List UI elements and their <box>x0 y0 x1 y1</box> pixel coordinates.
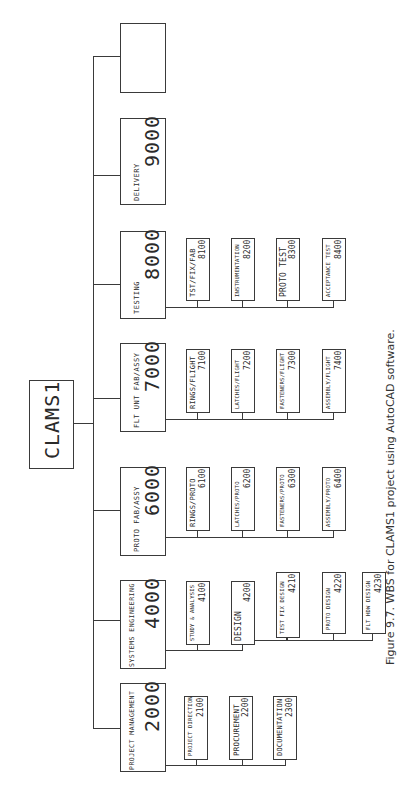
node-4210: TEST FIX DESIGN 4210 <box>276 572 300 638</box>
node-8300: PROTO TEST 8300 <box>276 238 300 301</box>
node-code: 6100 <box>199 469 207 488</box>
node-name: SYSTEMS ENGINEERING <box>129 583 136 667</box>
node-7100: RINGS/FLIGHT 7100 <box>186 349 210 413</box>
tick-4230 <box>372 633 373 640</box>
node-name: PROJECT MANAGEMENT <box>129 691 136 770</box>
figure-caption: Figure 9.7. WBS for CLAMS1 project using… <box>384 329 397 665</box>
node-8000-testing: TESTING 8000 <box>120 231 166 319</box>
bus-4200 <box>255 640 333 641</box>
tick-8400 <box>333 300 334 307</box>
node-6200: LATCHES/PROTO 6200 <box>231 467 255 531</box>
node-code: 8000 <box>142 228 162 280</box>
node-name: DESIGN <box>235 611 243 641</box>
stub-empty <box>93 56 120 57</box>
node-name: DELIVERY <box>134 163 141 201</box>
node-7400: ASSEMBLY/FLIGHT 7400 <box>322 349 346 413</box>
node-code: 7000 <box>142 340 162 392</box>
node-name: RINGS/PROTO <box>190 478 197 527</box>
bus-4000 <box>166 650 198 651</box>
node-6400: ASSEMBLY/PROTO 6400 <box>322 467 346 531</box>
node-code: 4000 <box>142 577 162 629</box>
node-2300: DOCUMENTATION 2300 <box>273 696 297 760</box>
node-code: 2000 <box>142 680 162 732</box>
tick-6200 <box>242 530 243 537</box>
node-code: 9000 <box>142 115 162 167</box>
tick-8200 <box>242 300 243 307</box>
tick-7300 <box>287 412 288 419</box>
node-code: 4100 <box>199 583 207 602</box>
node-name: FASTENERS/PROTO <box>280 474 286 527</box>
node-code: 7100 <box>199 351 207 370</box>
node-name: LATCHES/FLIGHT <box>235 360 241 409</box>
node-name: LATCHES/PROTO <box>235 481 241 527</box>
bus-4200-vertical <box>286 637 287 640</box>
node-code: 8200 <box>244 240 252 259</box>
node-name: TEST FIX DESIGN <box>280 581 286 634</box>
root-connector <box>73 423 93 424</box>
bus-4230-line <box>333 640 373 641</box>
tick-7100 <box>197 412 198 419</box>
node-4100: STUDY & ANALYSIS 4100 <box>186 581 210 645</box>
node-code: 8400 <box>335 240 343 259</box>
stub-2000 <box>93 728 120 729</box>
node-code: 6000 <box>142 464 162 516</box>
node-name: TESTING <box>134 281 141 314</box>
node-7200: LATCHES/FLIGHT 7200 <box>231 349 255 413</box>
node-code: 2100 <box>197 698 205 717</box>
bus-8000 <box>166 307 334 308</box>
node-code: 6300 <box>289 469 297 488</box>
tick-8300 <box>287 300 288 307</box>
node-name: PROCUREMENT <box>233 704 241 756</box>
node-code: 4230 <box>375 574 383 593</box>
node-8200: INSTRUMENTATION 8200 <box>231 238 255 301</box>
node-name: ASSEMBLY/PROTO <box>326 478 332 527</box>
node-code: 7400 <box>335 351 343 370</box>
tick-8100 <box>197 300 198 307</box>
node-code: 2300 <box>286 698 294 717</box>
stub-8000 <box>93 284 120 285</box>
node-2200: PROCUREMENT 2200 <box>229 696 253 760</box>
node-code: 4200 <box>244 583 252 602</box>
node-8400: ACCEPTANCE TEST 8400 <box>322 238 346 301</box>
tick-7200 <box>242 412 243 419</box>
node-4200: DESIGN 4200 <box>231 581 255 645</box>
node-name: ACCEPTANCE TEST <box>326 244 332 297</box>
node-name: STUDY & ANALYSIS <box>190 585 196 641</box>
node-name: FASTENERS/FLIGHT <box>280 353 286 409</box>
node-code: 6400 <box>335 469 343 488</box>
node-code: 4220 <box>335 574 343 593</box>
node-code: 4210 <box>289 574 297 593</box>
node-6000-proto-fab-assy: PROTO FAB/ASSY 6000 <box>120 467 166 556</box>
node-code: 8100 <box>199 240 207 259</box>
node-code: 2200 <box>242 698 250 717</box>
node-2000-project-management: PROJECT MANAGEMENT 2000 <box>120 683 166 772</box>
node-code: 7200 <box>244 351 252 370</box>
node-6100: RINGS/PROTO 6100 <box>186 467 210 531</box>
node-4220: PROTO DESIGN 4220 <box>322 572 346 634</box>
node-code: 6200 <box>244 469 252 488</box>
stub-7000 <box>93 398 120 399</box>
node-name: TST/FIX/FAB <box>190 248 197 297</box>
bus-7000 <box>166 419 334 420</box>
root-node-clams1: CLAMS1 <box>29 380 74 469</box>
node-name: RINGS/FLIGHT <box>190 356 197 409</box>
node-name: DOCUMENTATION <box>277 699 284 756</box>
tick-7400 <box>333 412 334 419</box>
node-4000-systems-engineering: SYSTEMS ENGINEERING 4000 <box>120 580 166 669</box>
bus-2000 <box>166 765 286 766</box>
stub-4000 <box>93 620 120 621</box>
stub-6000 <box>93 510 120 511</box>
node-2100: PROJECT DIRECTION 2100 <box>184 696 208 760</box>
root-label: CLAMS1 <box>42 381 62 459</box>
bus-4000-b <box>197 650 243 651</box>
bus-6000 <box>166 537 334 538</box>
node-name: INSTRUMENTATION <box>235 244 241 297</box>
node-code: 7300 <box>289 351 297 370</box>
node-name: ASSEMBLY/FLIGHT <box>326 356 332 409</box>
stub-9000 <box>93 175 120 176</box>
node-7300: FASTENERS/FLIGHT 7300 <box>276 349 300 413</box>
node-6300: FASTENERS/PROTO 6300 <box>276 467 300 531</box>
tick-6300 <box>287 530 288 537</box>
node-name: PROTO TEST <box>280 247 288 297</box>
node-9000-delivery: DELIVERY 9000 <box>120 118 166 205</box>
